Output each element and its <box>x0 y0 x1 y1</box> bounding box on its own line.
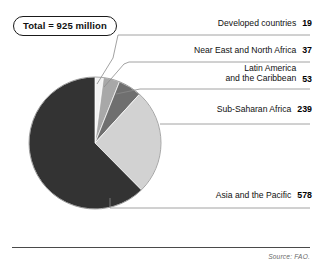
callout-latin-america-caribbean: Latin America and the Caribbean 53 <box>225 63 312 84</box>
callout-developed-value: 19 <box>302 18 312 28</box>
callout-sub-saharan-label: Sub-Saharan Africa <box>217 104 292 114</box>
callout-developed-label: Developed countries <box>218 18 296 28</box>
pie-chart <box>28 76 162 210</box>
callout-asia-label: Asia and the Pacific <box>216 190 291 200</box>
callout-latin-label: Latin America and the Caribbean <box>225 63 296 84</box>
chart-figure: Total = 925 million Developed countries … <box>0 0 320 270</box>
callout-asia-pacific: Asia and the Pacific 578 <box>216 190 312 200</box>
callout-sub-saharan-line1: Sub-Saharan Africa <box>217 104 292 114</box>
callout-asia-line1: Asia and the Pacific <box>216 190 291 200</box>
callout-latin-line1: Latin America <box>225 63 296 73</box>
callout-latin-value: 53 <box>302 74 312 84</box>
callout-near-east-north-africa: Near East and North Africa 37 <box>194 45 312 55</box>
callout-near-east-value: 37 <box>302 45 312 55</box>
source-attribution: Source: FAO. <box>268 253 310 260</box>
total-badge: Total = 925 million <box>13 16 117 36</box>
callout-asia-value: 578 <box>297 190 312 200</box>
callout-developed-countries: Developed countries 19 <box>218 18 312 28</box>
footer-divider <box>12 247 310 248</box>
callout-latin-line2: and the Caribbean <box>225 73 296 83</box>
callout-developed-line1: Developed countries <box>218 18 296 28</box>
pie-svg <box>28 76 162 210</box>
callout-sub-saharan-africa: Sub-Saharan Africa 239 <box>217 104 312 114</box>
callout-near-east-line1: Near East and North Africa <box>194 45 296 55</box>
callout-near-east-label: Near East and North Africa <box>194 45 296 55</box>
callout-sub-saharan-value: 239 <box>297 104 312 114</box>
